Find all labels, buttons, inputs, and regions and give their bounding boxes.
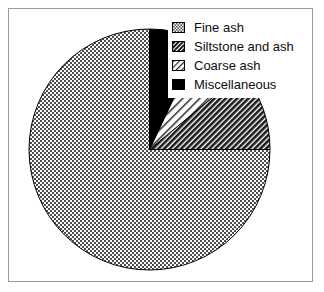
legend-label-siltstone-and-ash: Siltstone and ash xyxy=(194,39,294,54)
legend-item-coarse-ash[interactable]: Coarse ash xyxy=(172,56,294,74)
chart-legend: Fine ash Siltstone and ash Coarse ash Mi… xyxy=(168,14,300,98)
legend-item-fine-ash[interactable]: Fine ash xyxy=(172,18,294,36)
legend-label-miscellaneous: Miscellaneous xyxy=(194,77,276,92)
legend-label-fine-ash: Fine ash xyxy=(194,20,244,35)
stipple-swatch-icon xyxy=(172,22,185,33)
legend-label-coarse-ash: Coarse ash xyxy=(194,58,260,73)
legend-item-miscellaneous[interactable]: Miscellaneous xyxy=(172,75,294,93)
solid-black-swatch-icon xyxy=(172,79,185,90)
sparse-hatch-swatch-icon xyxy=(172,60,185,71)
chart-canvas: Fine ash Siltstone and ash Coarse ash Mi… xyxy=(0,0,324,292)
legend-item-siltstone-and-ash[interactable]: Siltstone and ash xyxy=(172,37,294,55)
dense-hatch-swatch-icon xyxy=(172,41,185,52)
